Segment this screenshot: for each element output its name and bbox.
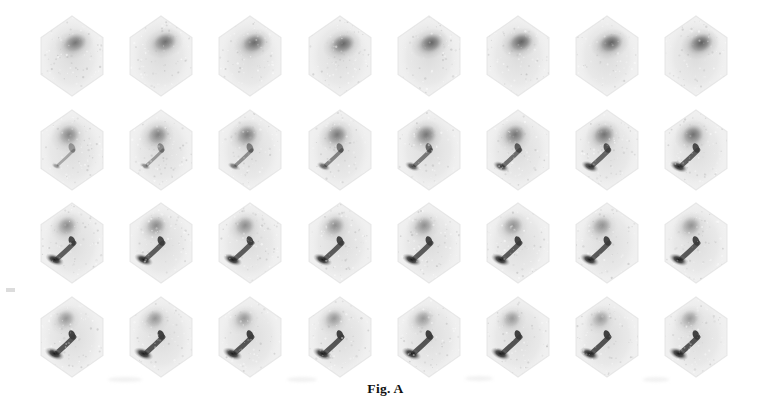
scan-row-1: [0, 10, 771, 105]
figure-caption: Fig. A: [0, 381, 771, 397]
scan-row-2: [0, 104, 771, 199]
figure-container: Fig. A: [0, 0, 771, 412]
scan-frame-r2c5: [391, 104, 467, 196]
scan-frame-r3c3: [212, 197, 288, 289]
scan-frame-r2c4: [302, 104, 378, 196]
scan-frame-r4c2: [123, 291, 199, 383]
scan-frame-r4c7: [569, 291, 645, 383]
scan-frame-r1c2: [123, 10, 199, 102]
scan-row-3: [0, 197, 771, 292]
scan-frame-r3c6: [480, 197, 556, 289]
scan-frame-r3c2: [123, 197, 199, 289]
scan-frame-r4c1: [34, 291, 110, 383]
scan-frame-r1c7: [569, 10, 645, 102]
scan-frame-r3c5: [391, 197, 467, 289]
scan-frame-r4c4: [302, 291, 378, 383]
scan-frame-r1c1: [34, 10, 110, 102]
scan-frame-r1c6: [480, 10, 556, 102]
scan-frame-r1c3: [212, 10, 288, 102]
scan-frame-r1c4: [302, 10, 378, 102]
artifact-left-margin-mark: [6, 288, 15, 292]
scan-frame-r4c5: [391, 291, 467, 383]
scan-frame-r4c3: [212, 291, 288, 383]
scintigraphy-image-grid: [0, 0, 771, 380]
scan-frame-r2c2: [123, 104, 199, 196]
scan-frame-r2c8: [658, 104, 734, 196]
scan-frame-r2c6: [480, 104, 556, 196]
scan-frame-r2c1: [34, 104, 110, 196]
scan-frame-r4c6: [480, 291, 556, 383]
scan-frame-r3c1: [34, 197, 110, 289]
scan-frame-r2c7: [569, 104, 645, 196]
scan-frame-r3c4: [302, 197, 378, 289]
scan-frame-r3c7: [569, 197, 645, 289]
scan-frame-r4c8: [658, 291, 734, 383]
scan-frame-r1c8: [658, 10, 734, 102]
scan-frame-r3c8: [658, 197, 734, 289]
scan-row-4: [0, 291, 771, 386]
scan-frame-r1c5: [391, 10, 467, 102]
scan-frame-r2c3: [212, 104, 288, 196]
